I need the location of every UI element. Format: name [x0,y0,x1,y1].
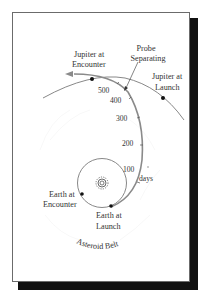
earth-launch-label-2: Launch [96,222,121,231]
probe-separating-label-2: Separating [130,54,165,63]
earth-orbit [78,159,127,208]
jupiter-encounter-label-2: Encounter [72,60,106,69]
probe-separating-pointer [126,62,138,88]
days-label: days [139,174,153,183]
jupiter-launch-label-2: Launch [155,83,180,92]
sun-icon [96,177,108,189]
earth-launch-dot [109,204,113,208]
trajectory-arrowhead-icon [65,71,73,77]
jupiter-launch-label-1: Jupiter at [152,72,183,81]
days-marker-dot [147,166,148,167]
earth-encounter-label-1: Earth at [49,190,75,199]
earth-launch-label-1: Earth at [96,211,122,220]
day-tick-300: 300 [116,114,128,123]
day-tick-400: 400 [110,96,122,105]
day-tick-200: 200 [122,139,134,148]
asteroid-belt-text: Asteroid Belt [75,237,120,251]
jupiter-launch-dot [161,96,165,100]
day-tick-100: 100 [123,165,135,174]
earth-encounter-label-2: Encounter [43,200,77,209]
day-tick-500: 500 [98,86,110,95]
probe-separating-label-1: Probe [136,44,155,53]
jupiter-encounter-label-1: Jupiter at [74,50,105,59]
earth-encounter-dot [80,192,84,196]
jupiter-encounter-dot [90,77,94,81]
trajectory-diagram: 100 200 300 400 500 days Jupiter at Enco… [0,0,203,299]
asteroid-belt-label: Asteroid Belt [75,237,120,251]
